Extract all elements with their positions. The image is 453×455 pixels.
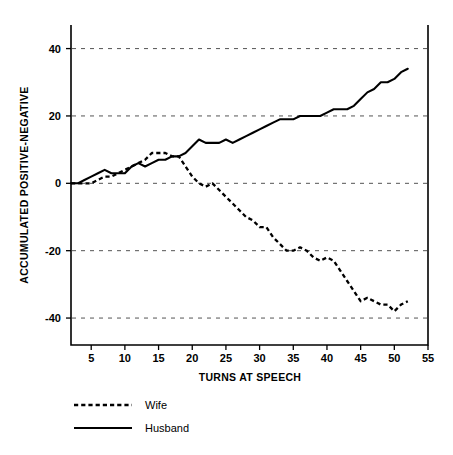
- chart-figure: -40-2002040 510152025303540455055 ACCUMU…: [0, 0, 453, 455]
- x-tick-label-15: 15: [152, 352, 164, 364]
- x-tick-label-20: 20: [186, 352, 198, 364]
- legend-label-husband: Husband: [145, 422, 189, 434]
- x-tick-label-55: 55: [422, 352, 434, 364]
- x-tick-label-45: 45: [355, 352, 367, 364]
- x-tick-label-5: 5: [88, 352, 94, 364]
- x-tick-label-40: 40: [321, 352, 333, 364]
- figure-background: [0, 0, 453, 455]
- x-tick-label-30: 30: [253, 352, 265, 364]
- y-axis-title: ACCUMULATED POSITIVE-NEGATIVE: [18, 86, 30, 283]
- y-tick-label-40: 40: [49, 43, 61, 55]
- x-axis-title: TURNS AT SPEECH: [199, 371, 302, 383]
- x-tick-label-35: 35: [287, 352, 299, 364]
- y-tick-label-20: 20: [49, 110, 61, 122]
- y-tick-label-0: 0: [55, 177, 61, 189]
- y-tick-label--40: -40: [45, 312, 61, 324]
- x-tick-label-25: 25: [220, 352, 232, 364]
- legend-label-wife: Wife: [145, 399, 167, 411]
- y-tick-label--20: -20: [45, 245, 61, 257]
- x-tick-label-50: 50: [388, 352, 400, 364]
- x-tick-label-10: 10: [119, 352, 131, 364]
- accumulated-positive-negative-line-chart: -40-2002040 510152025303540455055 ACCUMU…: [0, 0, 453, 455]
